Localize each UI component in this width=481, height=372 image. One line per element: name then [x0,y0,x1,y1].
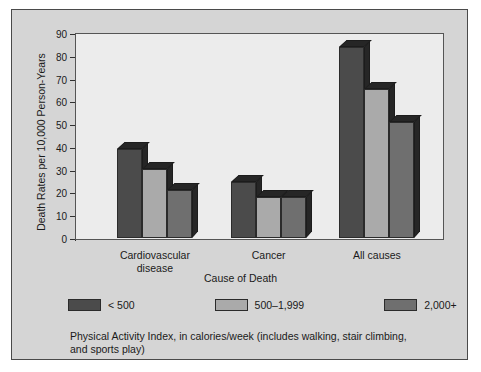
bar [117,149,142,238]
bar [256,197,281,238]
y-axis-tick-label: 30 [56,165,67,176]
bars-container [76,34,443,239]
bar-front-face [231,182,256,238]
y-axis-tick-label: 20 [56,188,67,199]
bar-front-face [142,169,167,238]
legend-label: 2,000+ [424,299,456,311]
legend-item: 2,000+ [384,299,456,311]
legend-swatch [68,299,101,311]
x-axis-category-label: Cardiovasculardisease [95,249,215,274]
legend-label: < 500 [108,299,135,311]
y-axis-tick-label: 50 [56,120,67,131]
y-axis-tick-label: 40 [56,142,67,153]
y-axis-tick-label: 60 [56,97,67,108]
bar [142,169,167,238]
x-axis-category-line: Cardiovascular [95,249,215,262]
bar [231,182,256,238]
y-axis-tick-label: 80 [56,51,67,62]
x-axis-category-line: All causes [317,249,437,262]
caption-line-2: and sports play) [70,343,442,356]
bar-front-face [256,197,281,238]
y-axis-tick-label: 90 [56,29,67,40]
chart-legend: < 500500–1,9992,000+ [68,299,457,311]
bar-front-face [167,190,192,238]
bar-front-face [389,122,414,238]
legend-swatch [384,299,417,311]
bar-side-face [306,190,312,238]
legend-item: 500–1,999 [215,299,305,311]
caption-line-1: Physical Activity Index, in calories/wee… [70,330,442,343]
x-axis-category-label: All causes [317,249,437,262]
chart-caption: Physical Activity Index, in calories/wee… [70,330,442,356]
bar [339,47,364,238]
legend-swatch [215,299,248,311]
bar-front-face [364,89,389,238]
x-axis-title: Cause of Death [12,272,469,284]
legend-label: 500–1,999 [255,299,305,311]
x-axis-category-line: Cancer [209,249,329,262]
bar-side-face [414,115,420,238]
plot-area [75,33,444,240]
bar-front-face [281,197,306,238]
bar [364,89,389,238]
chart-figure: Death Rates per 10,000 Person-Years 0102… [11,9,468,360]
bar [389,122,414,238]
y-axis-tick-label: 70 [56,74,67,85]
bar-front-face [339,47,364,238]
bar-side-face [192,184,198,238]
x-axis-category-label: Cancer [209,249,329,262]
bar-front-face [117,149,142,238]
legend-item: < 500 [68,299,135,311]
y-axis-tick-label: 10 [56,211,67,222]
bar [167,190,192,238]
y-axis-title: Death Rates per 10,000 Person-Years [35,42,47,242]
y-axis-tick-label: 0 [61,234,67,245]
bar [281,197,306,238]
